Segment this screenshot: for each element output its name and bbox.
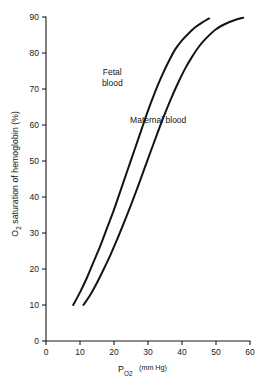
- y-tick-label: 90: [30, 12, 40, 22]
- x-axis-title-unit: (mm Hg): [139, 363, 167, 372]
- series-label-fetal-blood-line2: blood: [102, 78, 123, 88]
- y-tick-label: 70: [30, 84, 40, 94]
- y-tick-label: 20: [30, 264, 40, 274]
- curve-maternal-blood: [83, 18, 243, 305]
- y-axis-title-sub: 2: [15, 226, 22, 230]
- y-tick-label: 50: [30, 156, 40, 166]
- y-tick-label: 0: [34, 336, 39, 346]
- chart-tick-marks: [42, 17, 250, 345]
- series-label-maternal-blood: Maternal blood: [130, 115, 187, 125]
- series-label-fetal-blood: Fetal: [103, 67, 122, 77]
- y-axis-title: O2 saturation of hemoglobin (%): [10, 74, 22, 274]
- y-axis-title-post: saturation of hemoglobin (%): [10, 111, 20, 226]
- x-tick-label: 60: [245, 347, 255, 357]
- y-tick-label: 10: [30, 300, 40, 310]
- x-tick-label: 0: [44, 347, 49, 357]
- y-tick-label: 60: [30, 120, 40, 130]
- chart-axes: [46, 17, 250, 341]
- x-axis-title: PO2(mm Hg): [118, 363, 167, 377]
- x-tick-label: 10: [75, 347, 85, 357]
- oxygen-dissociation-chart: 01020304050607080900102030405060 Fetalbl…: [0, 0, 266, 382]
- x-tick-label: 30: [143, 347, 153, 357]
- chart-curves: [73, 18, 243, 305]
- x-tick-label: 40: [177, 347, 187, 357]
- chart-figure: 01020304050607080900102030405060 Fetalbl…: [0, 0, 266, 382]
- chart-tick-labels: 01020304050607080900102030405060: [30, 12, 255, 357]
- axis-lines: [46, 17, 250, 341]
- x-axis-title-subscript: O2: [124, 370, 133, 377]
- y-axis-title-pre: O: [10, 230, 20, 237]
- y-tick-label: 40: [30, 192, 40, 202]
- x-tick-label: 50: [211, 347, 221, 357]
- x-tick-label: 20: [109, 347, 119, 357]
- chart-series-labels: FetalbloodMaternal blood: [102, 67, 187, 126]
- y-tick-label: 30: [30, 228, 40, 238]
- y-tick-label: 80: [30, 48, 40, 58]
